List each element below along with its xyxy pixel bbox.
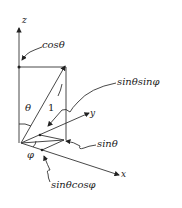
- sin-theta-cos-phi-leader: [44, 156, 50, 182]
- theta-arc: [19, 124, 31, 126]
- sin-theta-sin-phi-label: sinθsinφ: [117, 77, 160, 87]
- spherical-coordinates-diagram: z cosθ sinθsinφ θ 1 y sinθ φ x sinθcosφ: [0, 0, 182, 208]
- y-axis-label: y: [90, 109, 95, 118]
- unit-length-label: 1: [48, 103, 54, 113]
- y-component-point: [39, 134, 42, 137]
- vector-arc-mark: [58, 84, 62, 96]
- sin-theta-leader: [66, 141, 96, 149]
- sin-theta-sin-phi-leader: [48, 83, 116, 126]
- sin-theta-cos-phi-label: sinθcosφ: [51, 180, 96, 190]
- cos-theta-label: cosθ: [42, 40, 65, 50]
- projection-parallel-x: [40, 135, 64, 140]
- cos-theta-leader: [22, 47, 42, 60]
- x-axis-label: x: [121, 170, 126, 179]
- z-axis-label: z: [22, 16, 27, 25]
- sin-theta-label: sinθ: [97, 139, 118, 149]
- theta-label: θ: [25, 103, 31, 113]
- phi-label: φ: [27, 150, 34, 160]
- x-component-point: [41, 149, 44, 152]
- cos-theta-point: [18, 66, 21, 69]
